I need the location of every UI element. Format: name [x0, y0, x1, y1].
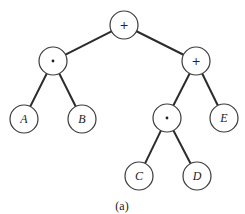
- node-label: +: [119, 19, 128, 32]
- operand-node: C: [125, 162, 153, 190]
- tree-edge: [173, 130, 190, 163]
- node-label: B: [78, 112, 86, 126]
- tree-nodes: ++ABECD: [10, 11, 238, 190]
- multiply-dot-icon: [166, 117, 169, 120]
- operand-node: D: [183, 162, 211, 190]
- expression-tree-diagram: ++ABECD (a): [0, 0, 245, 214]
- operator-node: [39, 47, 67, 75]
- node-label: C: [135, 169, 144, 183]
- multiply-dot-icon: [52, 60, 55, 63]
- node-label: E: [219, 111, 228, 125]
- tree-edge: [30, 74, 46, 107]
- figure-caption: (a): [115, 199, 128, 213]
- tree-edge: [202, 74, 218, 106]
- operand-node: B: [68, 105, 96, 133]
- tree-edge: [145, 131, 161, 164]
- operand-node: E: [210, 104, 238, 132]
- operand-node: A: [10, 105, 38, 133]
- node-label: D: [192, 169, 202, 183]
- operator-node: +: [110, 11, 138, 39]
- operator-node: +: [182, 47, 210, 75]
- tree-edge: [173, 73, 189, 105]
- tree-edge: [59, 74, 75, 107]
- node-label: +: [191, 55, 200, 68]
- operator-node: [153, 104, 181, 132]
- tree-edge: [65, 31, 111, 54]
- node-label: A: [19, 112, 28, 126]
- tree-edge: [137, 31, 184, 54]
